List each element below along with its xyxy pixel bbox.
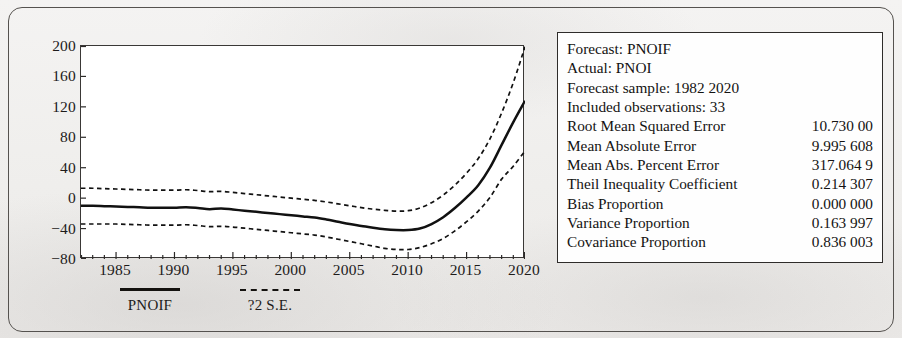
- legend-entry-se-band: ?2 S.E.: [230, 285, 310, 314]
- legend-label: PNOIF: [110, 297, 190, 314]
- stats-row-label: Variance Proportion: [567, 213, 793, 232]
- y-axis-tick-label: 80: [20, 129, 76, 145]
- y-axis-tick-label: −80: [20, 251, 76, 267]
- series-line--2-s-e-: [81, 151, 525, 250]
- forecast-statistics-table: Forecast: PNOIFActual: PNOIForecast samp…: [567, 39, 873, 252]
- stats-row: Covariance Proportion0.836 003: [567, 232, 873, 251]
- stats-row-value: 317.064 9: [793, 155, 873, 174]
- x-axis-tick-label: 1990: [158, 262, 190, 278]
- y-axis-tick-label: 40: [20, 160, 76, 176]
- stats-row-value: 0.836 003: [793, 232, 873, 251]
- x-axis-tick-label: 2010: [391, 262, 423, 278]
- stats-row-value: 9.995 608: [793, 136, 873, 155]
- stats-row: Bias Proportion0.000 000: [567, 194, 873, 213]
- legend-label: ?2 S.E.: [230, 297, 310, 314]
- stats-row-value: 0.214 307: [793, 174, 873, 193]
- stats-table-body: Forecast: PNOIFActual: PNOIForecast samp…: [567, 39, 873, 252]
- stats-row: Mean Abs. Percent Error317.064 9: [567, 155, 873, 174]
- stats-row-label: Root Mean Squared Error: [567, 116, 793, 135]
- stats-row-label: Included observations: 33: [567, 97, 793, 116]
- stats-row: Theil Inequality Coefficient0.214 307: [567, 174, 873, 193]
- stats-row: Variance Proportion0.163 997: [567, 213, 873, 232]
- series-line--2-s-e-: [81, 47, 525, 211]
- forecast-chart: 20016012080400−40−80 1985199019952000200…: [18, 22, 538, 317]
- y-axis-tick-label: 0: [20, 190, 76, 206]
- stats-row-value: [793, 97, 873, 116]
- x-axis-tick-label: 2000: [274, 262, 306, 278]
- forecast-statistics-box: Forecast: PNOIFActual: PNOIForecast samp…: [557, 32, 883, 263]
- stats-row-label: Forecast sample: 1982 2020: [567, 78, 793, 97]
- stats-row-value: 0.000 000: [793, 194, 873, 213]
- legend-swatch-solid: [110, 285, 190, 294]
- stats-row: Included observations: 33: [567, 97, 873, 116]
- stats-row-label: Forecast: PNOIF: [567, 39, 793, 58]
- stats-row-value: [793, 78, 873, 97]
- series-line-pnoif: [81, 101, 525, 230]
- x-axis-tick-label: 2015: [450, 262, 482, 278]
- stats-row: Actual: PNOI: [567, 58, 873, 77]
- stats-row: Mean Absolute Error9.995 608: [567, 136, 873, 155]
- x-axis-tick-label: 2020: [508, 262, 540, 278]
- stats-row-value: 0.163 997: [793, 213, 873, 232]
- stats-row-value: [793, 39, 873, 58]
- chart-legend: PNOIF?2 S.E.: [80, 285, 380, 319]
- stats-row-label: Actual: PNOI: [567, 58, 793, 77]
- stats-row: Forecast sample: 1982 2020: [567, 78, 873, 97]
- stats-row: Forecast: PNOIF: [567, 39, 873, 58]
- y-axis-tick-labels: 20016012080400−40−80: [18, 45, 76, 258]
- x-axis-tick-label: 1985: [99, 262, 131, 278]
- stats-row-label: Mean Absolute Error: [567, 136, 793, 155]
- stats-row-label: Covariance Proportion: [567, 232, 793, 251]
- x-axis-tick-label: 2005: [333, 262, 365, 278]
- y-axis-tick-label: −40: [20, 221, 76, 237]
- stats-row: Root Mean Squared Error10.730 00: [567, 116, 873, 135]
- stats-row-label: Theil Inequality Coefficient: [567, 174, 793, 193]
- stats-row-value: 10.730 00: [793, 116, 873, 135]
- plot-series-svg: [81, 46, 525, 259]
- legend-swatch-dashed: [230, 285, 310, 294]
- x-axis-tick-label: 1995: [216, 262, 248, 278]
- stats-row-value: [793, 58, 873, 77]
- stats-row-label: Mean Abs. Percent Error: [567, 155, 793, 174]
- plot-area: [80, 45, 524, 258]
- legend-entry-forecast: PNOIF: [110, 285, 190, 314]
- stats-row-label: Bias Proportion: [567, 194, 793, 213]
- y-axis-tick-label: 120: [20, 99, 76, 115]
- y-axis-tick-label: 200: [20, 38, 76, 54]
- x-axis-tick-labels: 19851990199520002005201020152020: [80, 262, 524, 282]
- y-axis-tick-label: 160: [20, 68, 76, 84]
